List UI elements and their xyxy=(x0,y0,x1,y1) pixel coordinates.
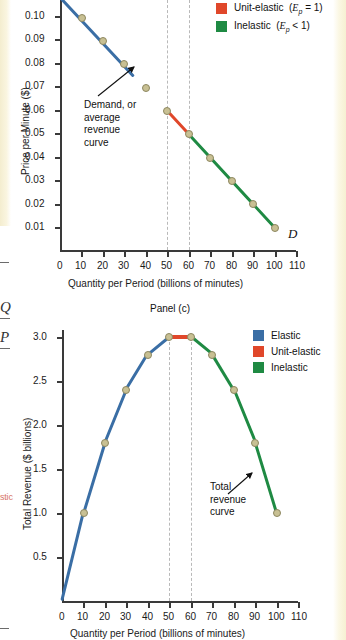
legend-label-inelastic: Inelastic xyxy=(271,362,308,373)
tr-x-tick xyxy=(191,602,193,608)
legend-item-elastic: Elastic xyxy=(253,330,320,341)
legend-swatch-elastic xyxy=(253,330,264,341)
tr-legend: Elastic Unit-elastic Inelastic xyxy=(253,330,320,378)
tr-y-ticklabel: 2.0 xyxy=(33,419,47,430)
tr-y-ticklabel: 0.5 xyxy=(33,551,47,562)
total-revenue-panel: Total Revenue ($ billions) 0.5 1.0 1.5 2… xyxy=(0,0,346,640)
tr-y-ticklabel: 1.5 xyxy=(33,463,47,474)
legend-label-unit-elastic: Unit-elastic xyxy=(271,346,320,357)
tr-x-tick xyxy=(255,602,257,608)
tr-segment-inelastic xyxy=(232,389,257,443)
tr-x-tick xyxy=(105,602,107,608)
legend-item-unit-elastic: Unit-elastic xyxy=(253,346,320,357)
tr-x-tick xyxy=(298,602,300,608)
tr-x-ticklabel: 70 xyxy=(206,611,217,622)
tr-segment-elastic xyxy=(125,353,149,390)
tr-data-point xyxy=(208,351,216,359)
legend-swatch-unit-elastic xyxy=(253,346,264,357)
tr-x-ticklabel: 100 xyxy=(268,611,285,622)
tr-data-point xyxy=(144,351,152,359)
tr-x-ticklabel: 80 xyxy=(228,611,239,622)
tr-segment-elastic xyxy=(60,513,85,602)
tr-y-ticklabel: 1.0 xyxy=(33,507,47,518)
tr-y-tick xyxy=(57,381,63,383)
tr-x-ticklabel: 90 xyxy=(249,611,260,622)
legend-label-elastic: Elastic xyxy=(271,330,300,341)
tr-segment-elastic xyxy=(103,389,128,443)
figure-root: Q P stic Price per Minute ($) 0.01 0.02 … xyxy=(0,0,346,640)
tr-x-tick xyxy=(277,602,279,608)
tr-y-tick xyxy=(57,513,63,515)
tr-x-tick xyxy=(234,602,236,608)
tr-data-point xyxy=(80,509,88,517)
legend-item-inelastic: Inelastic xyxy=(253,362,320,373)
tr-y-axis-title: Total Revenue ($ billions) xyxy=(22,418,33,530)
tr-y-tick xyxy=(57,557,63,559)
tr-gridline-q60 xyxy=(191,337,192,601)
tr-y-tick xyxy=(57,425,63,427)
tr-x-tick xyxy=(126,602,128,608)
tr-annotation-text: Total revenue curve xyxy=(210,481,246,519)
tr-y-tick xyxy=(57,469,63,471)
tr-x-ticklabel: 50 xyxy=(163,611,174,622)
tr-data-point xyxy=(273,509,281,517)
tr-x-ticklabel: 60 xyxy=(185,611,196,622)
tr-segment-elastic xyxy=(82,442,107,513)
tr-data-point xyxy=(165,333,173,341)
legend-swatch-inelastic xyxy=(253,362,264,373)
tr-x-ticklabel: 0 xyxy=(59,611,65,622)
tr-x-tick xyxy=(169,602,171,608)
tr-data-point xyxy=(101,439,109,447)
tr-x-ticklabel: 10 xyxy=(77,611,88,622)
tr-x-ticklabel: 20 xyxy=(99,611,110,622)
tr-y-ticklabel: 2.5 xyxy=(33,375,47,386)
tr-y-axis xyxy=(62,330,64,602)
tr-x-axis xyxy=(62,601,298,603)
tr-data-point xyxy=(251,439,259,447)
tr-x-axis-title: Quantity per Period (billions of minutes… xyxy=(70,628,245,639)
tr-y-tick xyxy=(57,337,63,339)
tr-gridline-q50 xyxy=(169,337,170,601)
tr-data-point xyxy=(187,333,195,341)
tr-x-tick xyxy=(83,602,85,608)
tr-x-ticklabel: 110 xyxy=(291,611,307,622)
tr-x-tick xyxy=(212,602,214,608)
tr-x-ticklabel: 40 xyxy=(142,611,153,622)
tr-y-ticklabel: 3.0 xyxy=(33,331,47,342)
tr-x-ticklabel: 30 xyxy=(120,611,131,622)
tr-data-point xyxy=(230,386,238,394)
tr-data-point xyxy=(122,386,130,394)
tr-x-tick xyxy=(148,602,150,608)
